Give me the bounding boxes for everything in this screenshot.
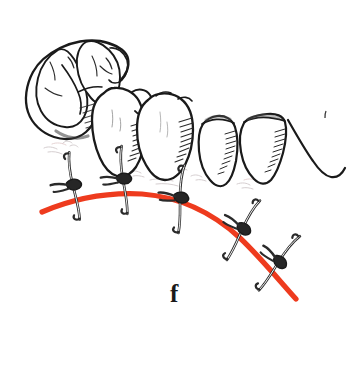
dental-suture-figure: f	[0, 0, 359, 374]
illustration-canvas	[0, 0, 359, 374]
figure-label: f	[170, 281, 178, 306]
